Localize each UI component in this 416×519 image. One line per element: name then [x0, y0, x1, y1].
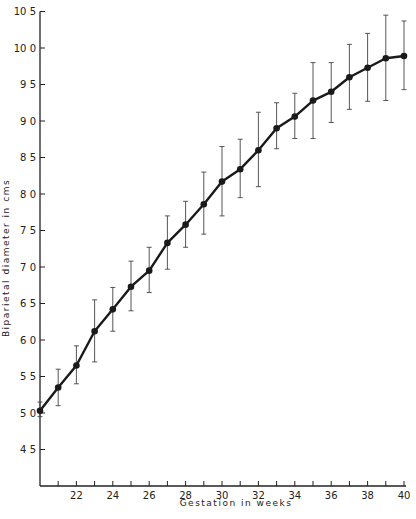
data-point — [328, 89, 335, 96]
x-tick-label: 36 — [325, 490, 338, 501]
data-point — [55, 384, 62, 391]
x-tick-label: 40 — [398, 490, 411, 501]
y-tick-label: 7 5 — [20, 225, 36, 236]
data-point — [346, 74, 353, 81]
data-point — [401, 53, 408, 60]
y-tick-label: 9 5 — [20, 79, 36, 90]
data-point — [128, 283, 135, 290]
data-point — [383, 55, 390, 62]
data-point — [237, 166, 244, 173]
y-tick-label: 6 0 — [20, 335, 36, 346]
data-point — [73, 362, 80, 369]
y-tick-label: 10 5 — [14, 6, 36, 17]
y-tick-label: 10 0 — [14, 43, 36, 54]
x-tick-label: 26 — [143, 490, 156, 501]
data-point — [310, 97, 317, 104]
data-point — [292, 113, 299, 120]
data-point — [110, 306, 117, 313]
y-tick-label: 5 0 — [20, 408, 36, 419]
data-point — [201, 201, 208, 208]
y-axis-title: Biparietal diameter in cms — [1, 179, 11, 337]
x-axis-title: Gestation in weeks — [180, 498, 293, 508]
y-tick-label: 4 5 — [20, 444, 36, 455]
data-point — [37, 408, 44, 415]
data-point — [255, 147, 262, 154]
y-tick-label: 6 5 — [20, 298, 36, 309]
x-tick-label: 38 — [361, 490, 374, 501]
data-point — [364, 64, 371, 71]
y-tick-label: 9 0 — [20, 116, 36, 127]
bpd-gestation-chart: 4 55 05 56 06 57 07 58 08 59 09 510 010 … — [0, 0, 416, 519]
data-point — [164, 240, 171, 247]
data-point — [273, 125, 280, 132]
x-tick-label: 24 — [106, 490, 119, 501]
data-point — [91, 328, 98, 335]
data-point — [146, 267, 153, 274]
y-tick-label: 8 0 — [20, 189, 36, 200]
y-tick-label: 8 5 — [20, 152, 36, 163]
y-tick-label: 5 5 — [20, 371, 36, 382]
y-tick-label: 7 0 — [20, 262, 36, 273]
x-tick-label: 22 — [70, 490, 83, 501]
data-point — [182, 221, 189, 228]
data-point — [219, 178, 226, 185]
data-markers — [37, 53, 408, 414]
